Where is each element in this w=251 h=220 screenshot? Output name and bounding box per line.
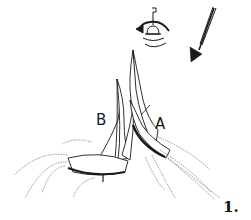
bell-buoy-icon bbox=[143, 8, 166, 47]
wind-arrow-icon bbox=[190, 7, 216, 62]
boat-a-label: A bbox=[155, 117, 165, 132]
boat-b bbox=[68, 79, 134, 182]
diagram-canvas bbox=[0, 0, 251, 220]
boat-b-label: B bbox=[96, 113, 106, 128]
boat-a bbox=[130, 50, 170, 158]
figure-number: 1. bbox=[223, 200, 239, 215]
